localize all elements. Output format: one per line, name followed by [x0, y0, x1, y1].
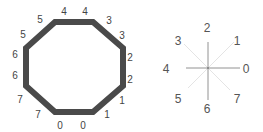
- octagon-edge-label: 5: [37, 14, 43, 25]
- octagon-edge-label: 2: [127, 52, 133, 63]
- octagon-edge-label: 0: [80, 120, 86, 131]
- axis-diagonal-3-7: [184, 44, 230, 90]
- octagon-edge-label: 3: [119, 30, 125, 41]
- octagon-edge-label: 7: [17, 94, 23, 105]
- direction-label: 7: [234, 92, 241, 106]
- octagon-shape: [26, 22, 123, 112]
- octagon-edge-label: 0: [57, 120, 63, 131]
- octagon-edge-label: 6: [12, 70, 18, 81]
- octagon-edge-label: 1: [104, 109, 110, 120]
- octagon-edge-label: 3: [106, 15, 112, 26]
- octagon-edge-label: 5: [20, 29, 26, 40]
- octagon-edge-label: 7: [35, 109, 41, 120]
- direction-label: 2: [204, 21, 211, 35]
- octagon-edge-label: 4: [82, 6, 88, 17]
- direction-label: 6: [204, 102, 211, 116]
- direction-label: 1: [234, 34, 241, 48]
- direction-label: 5: [175, 92, 182, 106]
- axis-diagonal-1-5: [188, 42, 234, 88]
- star-center: [207, 67, 209, 69]
- direction-star: [184, 42, 240, 100]
- octagon-edge-label: 1: [119, 95, 125, 106]
- diagram-canvas: 4433221100776655 01234567: [0, 0, 263, 132]
- direction-label: 4: [163, 62, 170, 76]
- octagon-edge-label: 6: [12, 49, 18, 60]
- octagon-edge-label: 2: [127, 74, 133, 85]
- direction-label: 0: [243, 62, 250, 76]
- direction-label: 3: [175, 34, 182, 48]
- star-labels: 01234567: [163, 21, 250, 116]
- octagon-edge-label: 4: [61, 6, 67, 17]
